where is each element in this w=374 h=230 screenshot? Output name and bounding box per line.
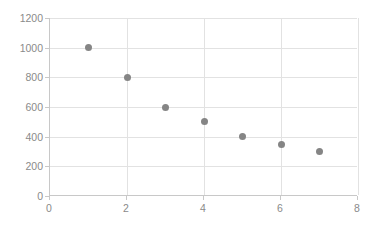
x-axis-tick-label: 8 bbox=[354, 203, 360, 214]
x-axis-tick-mark bbox=[126, 196, 127, 200]
x-axis-tick-mark bbox=[357, 196, 358, 200]
scatter-chart: 020040060080010001200 02468 bbox=[0, 0, 374, 230]
data-point bbox=[162, 104, 169, 111]
gridline-vertical bbox=[204, 18, 205, 195]
plot-area bbox=[49, 18, 357, 196]
data-point bbox=[85, 44, 92, 51]
x-axis-tick-label: 2 bbox=[123, 203, 129, 214]
data-point bbox=[278, 141, 285, 148]
y-axis-tick-label: 1000 bbox=[20, 42, 43, 53]
y-axis-tick-label: 1200 bbox=[20, 13, 43, 24]
x-axis-tick-label: 6 bbox=[277, 203, 283, 214]
x-axis-tick-label: 0 bbox=[46, 203, 52, 214]
x-axis-tick-mark bbox=[280, 196, 281, 200]
x-axis-tick-mark bbox=[203, 196, 204, 200]
data-point bbox=[239, 133, 246, 140]
gridline-vertical bbox=[281, 18, 282, 195]
data-point bbox=[316, 148, 323, 155]
y-axis-tick-label: 800 bbox=[25, 72, 43, 83]
gridline-vertical bbox=[127, 18, 128, 195]
x-axis-tick-mark bbox=[49, 196, 50, 200]
gridline-vertical bbox=[358, 18, 359, 195]
x-axis-tick-label: 4 bbox=[200, 203, 206, 214]
data-point bbox=[124, 74, 131, 81]
y-axis-tick-label: 200 bbox=[25, 161, 43, 172]
data-point bbox=[201, 118, 208, 125]
y-axis-tick-label: 600 bbox=[25, 102, 43, 113]
y-axis-tick-label: 400 bbox=[25, 131, 43, 142]
y-axis-tick-label: 0 bbox=[37, 191, 43, 202]
